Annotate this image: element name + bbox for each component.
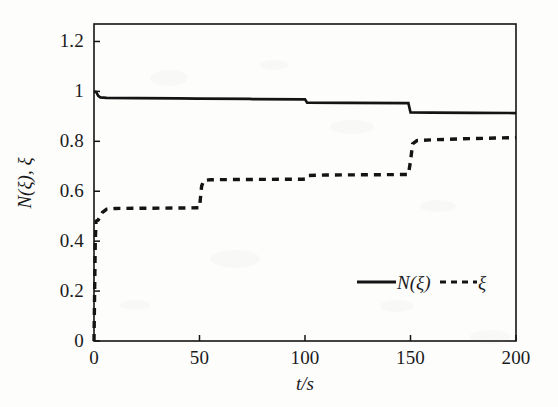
series-line-1 — [94, 138, 516, 341]
legend-label-n-xi: N(ξ) — [397, 272, 430, 294]
series-line-0 — [94, 91, 516, 113]
y-tick-label-4: 0.8 — [30, 130, 84, 152]
y-tick-label-6: 1.2 — [30, 30, 84, 52]
axis-ticks — [94, 41, 516, 341]
x-axis-title: t/s — [296, 373, 314, 395]
x-tick-label-4: 200 — [501, 347, 530, 369]
y-axis-title: N(ξ), ξ — [14, 157, 36, 208]
data-series-group — [94, 91, 516, 341]
figure-container: 00.20.40.60.811.2 050100150200 t/s N(ξ),… — [0, 0, 558, 407]
x-tick-label-0: 0 — [89, 347, 99, 369]
legend-label-xi: ξ — [478, 272, 486, 294]
y-tick-label-5: 1 — [30, 80, 84, 102]
x-tick-label-3: 150 — [396, 347, 425, 369]
y-tick-label-1: 0.2 — [30, 280, 84, 302]
y-tick-label-3: 0.6 — [30, 180, 84, 202]
y-tick-label-0: 0 — [30, 330, 84, 352]
x-tick-label-2: 100 — [290, 347, 319, 369]
axes-frame — [94, 24, 516, 341]
x-tick-label-1: 50 — [190, 347, 209, 369]
plot-frame-rect — [94, 24, 516, 341]
y-tick-label-2: 0.4 — [30, 230, 84, 252]
